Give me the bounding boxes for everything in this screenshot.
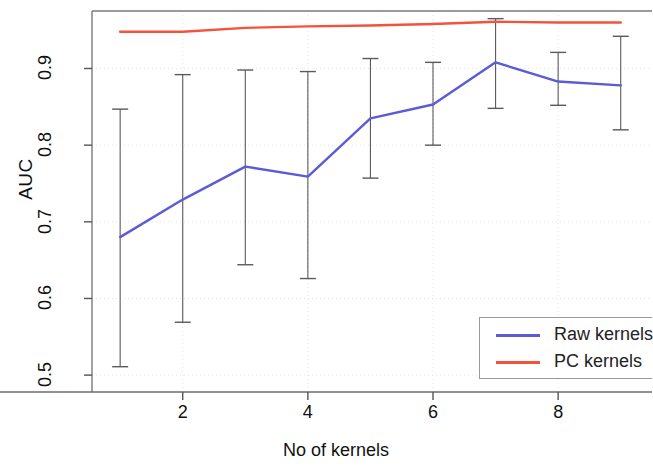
chart-legend: Raw kernels PC kernels: [479, 317, 652, 379]
legend-item-pc-kernels: PC kernels: [480, 349, 652, 375]
legend-label-raw-kernels: Raw kernels: [554, 324, 653, 345]
legend-swatch-raw-kernels: [496, 334, 540, 337]
legend-label-pc-kernels: PC kernels: [554, 351, 642, 372]
legend-swatch-pc-kernels: [496, 361, 540, 364]
legend-item-raw-kernels: Raw kernels: [480, 322, 652, 348]
series-line-pc-kernels: [120, 22, 621, 32]
